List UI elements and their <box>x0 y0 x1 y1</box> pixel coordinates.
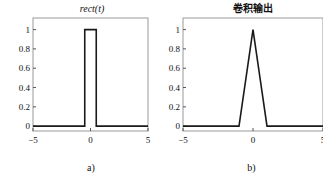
y-tick-label: 0.8 <box>19 44 31 54</box>
x-tick-label: −5 <box>28 135 38 145</box>
x-tick-label: −5 <box>178 135 188 145</box>
y-tick-label: 1 <box>26 25 31 35</box>
y-tick-label: 0 <box>176 121 181 131</box>
data-series-line <box>183 30 323 127</box>
panel-a-plot: 00.20.40.60.81−505 <box>0 14 162 138</box>
data-series-line <box>33 30 148 127</box>
y-tick-label: 0 <box>26 121 31 131</box>
x-tick-label: 0 <box>251 135 256 145</box>
y-tick-label: 1 <box>176 25 181 35</box>
y-tick-label: 0.4 <box>169 83 181 93</box>
panel-a: rect(t) 00.20.40.60.81−505 a) <box>0 0 162 178</box>
panel-a-caption: a) <box>0 162 162 174</box>
y-tick-label: 0.4 <box>19 83 31 93</box>
y-tick-label: 0.2 <box>169 102 180 112</box>
x-tick-label: 0 <box>88 135 93 145</box>
figure-container: rect(t) 00.20.40.60.81−505 a) 卷积输出 00.20… <box>0 0 323 178</box>
panel-b-caption: b) <box>148 162 323 174</box>
y-tick-label: 0.6 <box>19 63 31 73</box>
y-tick-label: 0.2 <box>19 102 30 112</box>
y-tick-label: 0.6 <box>169 63 181 73</box>
panel-b: 卷积输出 00.20.40.60.81−505 b) <box>148 0 323 178</box>
y-tick-label: 0.8 <box>169 44 181 54</box>
panel-b-plot: 00.20.40.60.81−505 <box>148 14 323 138</box>
